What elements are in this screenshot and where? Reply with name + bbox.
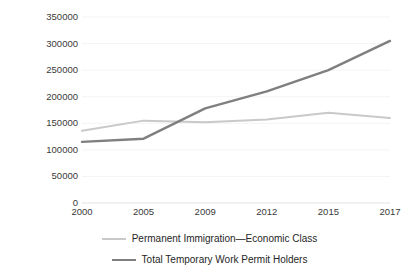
x-axis-tick-labels: 200020052009201220152017 [0,206,419,224]
x-axis-tick-label: 2009 [195,206,216,218]
legend-line-icon [102,238,126,240]
x-axis-tick-label: 2012 [256,206,277,218]
gridlines [82,17,390,203]
y-axis-tick-label: 150000 [0,118,78,128]
legend-label: Total Temporary Work Permit Holders [142,254,308,266]
y-axis-tick-label: 200000 [0,92,78,102]
y-axis-tick-labels: 3500003000002500002000001500001000005000… [0,0,78,210]
legend-line-icon [112,259,136,261]
y-axis-tick-label: 300000 [0,39,78,49]
x-axis-tick-label: 2000 [71,206,92,218]
line-chart: 3500003000002500002000001500001000005000… [0,0,419,280]
y-axis-tick-label: 50000 [0,171,78,181]
y-axis-tick-label: 250000 [0,65,78,75]
x-axis-tick-label: 2015 [318,206,339,218]
legend-item[interactable]: Permanent Immigration—Economic Class [0,228,419,249]
series-line-0 [82,113,390,131]
y-axis-tick-label: 350000 [0,12,78,22]
series-line-1 [82,41,390,142]
y-axis-tick-label: 100000 [0,145,78,155]
chart-legend: Permanent Immigration—Economic ClassTota… [0,228,419,278]
x-axis-tick-label: 2017 [379,206,400,218]
legend-item[interactable]: Total Temporary Work Permit Holders [0,249,419,270]
x-axis-tick-label: 2005 [133,206,154,218]
legend-label: Permanent Immigration—Economic Class [132,233,318,245]
data-series [82,41,390,142]
